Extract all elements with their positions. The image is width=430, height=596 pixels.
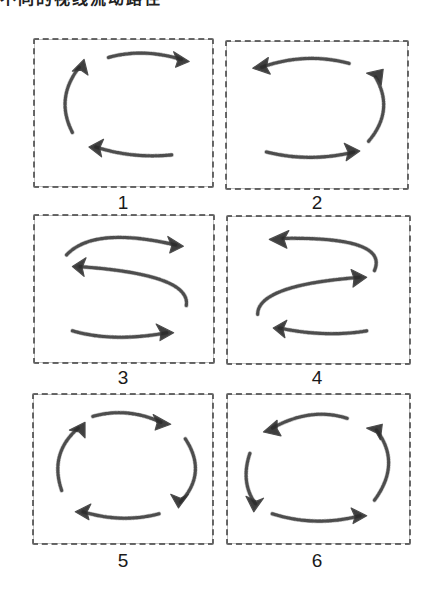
clockwise-circle-flow-icon	[34, 395, 212, 543]
counter-clockwise-circle-flow-icon	[228, 395, 409, 543]
panel-6	[226, 393, 411, 545]
c-shape-flow-icon	[35, 40, 212, 186]
panel-label-1: 1	[103, 193, 143, 213]
reverse-c-shape-flow-icon	[227, 42, 407, 188]
panel-1	[33, 38, 214, 188]
panel-label-6: 6	[297, 551, 337, 571]
panel-label-3: 3	[103, 368, 143, 388]
panel-2	[225, 40, 409, 190]
panel-label-4: 4	[297, 368, 337, 388]
panel-3	[33, 214, 215, 364]
panel-label-5: 5	[103, 551, 143, 571]
panel-5	[32, 393, 214, 545]
page-heading: 不同的视线流动路径	[0, 0, 162, 8]
panel-4	[226, 215, 411, 365]
panel-label-2: 2	[297, 193, 337, 213]
s-shape-flow-icon	[35, 216, 213, 362]
reverse-s-shape-flow-icon	[228, 217, 409, 363]
